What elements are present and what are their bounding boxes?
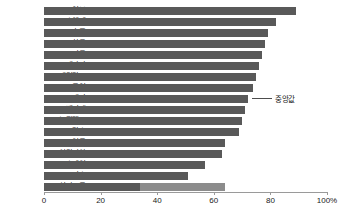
bar-track [44, 40, 265, 48]
bar [44, 18, 276, 26]
bar [44, 117, 242, 125]
bar-track [44, 150, 222, 158]
bar [44, 73, 256, 81]
x-axis-tick [327, 192, 328, 195]
bar [44, 29, 268, 37]
x-axis-tick-label: 100% [317, 196, 337, 205]
bar-row: 캐나다 [0, 60, 360, 71]
bar-track [44, 183, 225, 191]
x-axis-tick [44, 192, 45, 195]
x-axis-tick [214, 192, 215, 195]
x-axis-tick [101, 192, 102, 195]
bar [44, 84, 253, 92]
bar-row: 독일 [0, 82, 360, 93]
bar [44, 161, 205, 169]
bar-track [44, 84, 253, 92]
bar-track [44, 139, 225, 147]
bar-row: 벨기에 [0, 104, 360, 115]
bar [44, 95, 248, 103]
bar-row: 한국 [0, 38, 360, 49]
x-axis-tick [270, 192, 271, 195]
bar [44, 7, 296, 15]
bar-row: 네덜란드 [0, 71, 360, 82]
x-axis-tick-label: 60 [209, 196, 218, 205]
median-leader-line [252, 98, 272, 99]
bar-track [44, 128, 239, 136]
bar-track [44, 161, 205, 169]
bar-row: 스웨덴 [0, 16, 360, 27]
bar [44, 106, 245, 114]
bar-track [44, 106, 245, 114]
bar-track [44, 51, 262, 59]
bar-row: 그리스 [0, 170, 360, 181]
bar-row: 스페인 [0, 159, 360, 170]
horizontal-bar-chart: 일본스웨덴호주한국미국캐나다네덜란드독일대만벨기에뉴질랜드프랑스영국이탈리아스페… [0, 0, 360, 218]
bar-row: 일본 [0, 5, 360, 16]
bar-track [44, 62, 259, 70]
x-axis-tick-label: 40 [153, 196, 162, 205]
bar [44, 62, 259, 70]
bar-row: 영국 [0, 137, 360, 148]
x-axis-tick-label: 0 [42, 196, 46, 205]
bar-track [44, 73, 256, 81]
x-axis-line [44, 192, 327, 193]
bar-row: 미국 [0, 49, 360, 60]
bar-track [44, 7, 296, 15]
bar [44, 183, 140, 191]
bar-segment-secondary [140, 183, 225, 191]
x-axis-tick [157, 192, 158, 195]
plot-area: 일본스웨덴호주한국미국캐나다네덜란드독일대만벨기에뉴질랜드프랑스영국이탈리아스페… [0, 0, 360, 218]
x-axis-tick-label: 20 [96, 196, 105, 205]
bar [44, 150, 222, 158]
bar-row: 이탈리아 [0, 148, 360, 159]
bar-track [44, 172, 188, 180]
bar-row: 대만 [0, 93, 360, 104]
bar-row: 뉴질랜드 [0, 115, 360, 126]
bar [44, 40, 265, 48]
bar-row: 싱가포르 [0, 181, 360, 192]
bar [44, 51, 262, 59]
bar-track [44, 29, 268, 37]
bar [44, 128, 239, 136]
bar-row: 프랑스 [0, 126, 360, 137]
bar-track [44, 95, 248, 103]
median-annotation-label: 중앙값 [275, 93, 295, 104]
x-axis-tick-label: 80 [266, 196, 275, 205]
bar [44, 172, 188, 180]
bar-row: 호주 [0, 27, 360, 38]
bar [44, 139, 225, 147]
bar-track [44, 18, 276, 26]
bar-track [44, 117, 242, 125]
